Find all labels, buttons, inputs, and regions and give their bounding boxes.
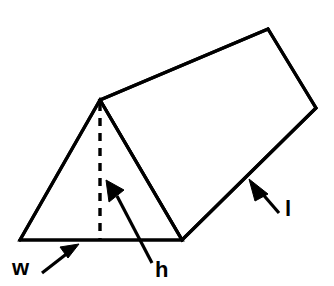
prism-drawing-canvas: w h l [0,0,334,286]
label-width: w [11,255,30,280]
label-height: h [155,257,168,282]
width-leader-line [42,252,69,273]
triangular-prism-figure: w h l [0,0,334,286]
label-length: l [285,196,291,221]
